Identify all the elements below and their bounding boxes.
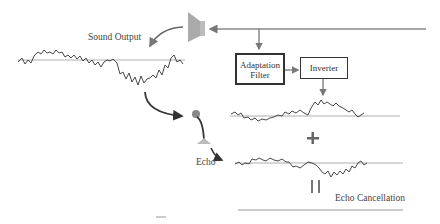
- echo-cancellation-label: Echo Cancellation: [335, 193, 405, 203]
- microphone-icon: [192, 110, 211, 144]
- sound-output-arrow: [150, 27, 183, 46]
- to-microphone-arrow: [145, 92, 182, 116]
- speaker-icon: [188, 12, 205, 42]
- diagram-graphics: [0, 0, 440, 224]
- sound-output-waveform: [18, 50, 185, 85]
- sound-output-label: Sound Output: [88, 32, 141, 42]
- echo-cancellation-diagram: Sound Output Echo Echo Cancellation Adap…: [0, 0, 440, 224]
- footer-mark: [156, 216, 166, 218]
- equals-sign: [311, 180, 320, 193]
- inverter-block: Inverter: [300, 57, 348, 79]
- adaptation-filter-block: Adaptation Filter: [235, 53, 285, 85]
- echo-waveform: [235, 158, 403, 177]
- inverter-label: Inverter: [310, 63, 338, 73]
- inverted-waveform: [230, 100, 400, 121]
- echo-label: Echo: [196, 157, 216, 167]
- plus-sign: [307, 132, 319, 144]
- adaptation-filter-label: Adaptation Filter: [240, 60, 280, 80]
